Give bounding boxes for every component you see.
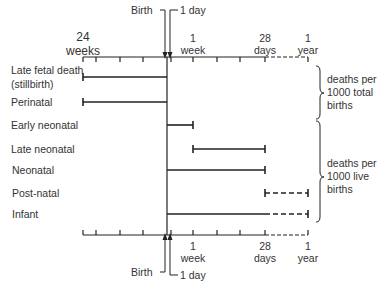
top-axis-label-1year: 1 year bbox=[288, 32, 328, 56]
top-axis-label-28days: 28 days bbox=[245, 32, 285, 56]
bottom-axis-label-1week: 1 week bbox=[173, 240, 213, 264]
bar-post-natal bbox=[265, 189, 308, 197]
top-one-day-label: 1 day bbox=[180, 4, 206, 16]
top-axis-label-1week: 1 week bbox=[173, 32, 213, 56]
group-label-live-births: deaths per 1000 live births bbox=[327, 157, 377, 196]
bottom-axis-ticks bbox=[83, 230, 308, 235]
row-label-late-neonatal: Late neonatal bbox=[11, 143, 75, 155]
top-birth-label: Birth bbox=[131, 4, 153, 16]
row-label-infant: Infant bbox=[12, 208, 38, 220]
top-axis-ticks bbox=[83, 57, 308, 62]
brace-total-births bbox=[316, 66, 324, 119]
bar-early-neonatal bbox=[167, 121, 193, 129]
bar-neonatal bbox=[167, 166, 265, 174]
bottom-axis-label-28days: 28 days bbox=[245, 240, 285, 264]
row-label-neonatal: Neonatal bbox=[12, 164, 54, 176]
row-label-post-natal: Post-natal bbox=[12, 187, 59, 199]
top-axis-label-24: 24 weeks bbox=[63, 30, 103, 58]
group-label-total-births: deaths per 1000 total births bbox=[327, 73, 377, 112]
bottom-axis-label-1year: 1 year bbox=[288, 240, 328, 264]
bar-late-fetal-death bbox=[83, 73, 167, 81]
row-label-perinatal: Perinatal bbox=[11, 96, 52, 108]
brace-live-births bbox=[316, 121, 324, 222]
bottom-birth-label: Birth bbox=[131, 266, 153, 278]
birth-arrow-top bbox=[160, 10, 165, 52]
row-label-early-neonatal: Early neonatal bbox=[11, 119, 78, 131]
bar-late-neonatal bbox=[193, 145, 265, 153]
bottom-one-day-label: 1 day bbox=[180, 269, 206, 281]
row-label-late-fetal-death: Late fetal death (stillbirth) bbox=[11, 64, 83, 90]
birth-arrow-bottom bbox=[160, 240, 165, 272]
bar-perinatal bbox=[83, 98, 167, 106]
bar-infant bbox=[167, 210, 308, 218]
